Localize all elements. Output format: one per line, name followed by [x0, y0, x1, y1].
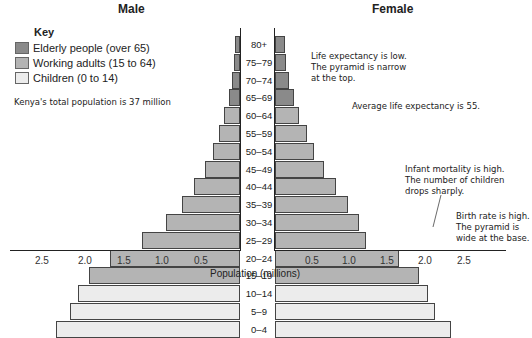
male-bar: [232, 72, 240, 89]
age-label: 30–34: [245, 217, 273, 228]
age-label: 55–59: [245, 128, 273, 139]
x-tick-label: 2.5: [35, 255, 49, 266]
male-bar: [78, 285, 240, 302]
x-tick-label: 0.5: [305, 255, 319, 266]
female-bar: [275, 89, 294, 106]
age-label: 50–54: [245, 146, 273, 157]
x-tick-label: 2.5: [457, 255, 471, 266]
age-label: 60–64: [245, 110, 273, 121]
age-label: 35–39: [245, 199, 273, 210]
male-bar: [194, 178, 240, 195]
male-bar: [70, 303, 240, 320]
x-tick-label: 2.0: [418, 255, 432, 266]
male-bar: [219, 125, 240, 142]
age-label: 25–29: [245, 235, 273, 246]
age-label: 40–44: [245, 181, 273, 192]
female-bar: [275, 303, 435, 320]
female-bar: [275, 143, 314, 160]
x-tick-label: 1.0: [155, 255, 169, 266]
age-label: 0–4: [245, 324, 273, 335]
female-bar: [275, 285, 428, 302]
x-tick-label: 2.0: [78, 255, 92, 266]
x-tick-label: 0.5: [194, 255, 208, 266]
female-bar: [275, 72, 289, 89]
age-label: 75–79: [245, 57, 273, 68]
female-bar: [275, 125, 307, 142]
female-bar: [275, 36, 285, 53]
x-tick-label: 1.5: [380, 255, 394, 266]
male-x-axis: [10, 250, 241, 251]
female-bar: [275, 178, 336, 195]
age-label: 5–9: [245, 306, 273, 317]
age-label: 65–69: [245, 92, 273, 103]
female-bar: [275, 321, 451, 338]
male-bar: [205, 161, 240, 178]
female-x-axis: [274, 250, 506, 251]
age-label: 45–49: [245, 164, 273, 175]
female-bar: [275, 232, 366, 249]
male-bar: [213, 143, 240, 160]
male-bar: [224, 107, 240, 124]
age-label: 70–74: [245, 75, 273, 86]
female-bar: [275, 107, 299, 124]
x-tick-label: 1.5: [117, 255, 131, 266]
male-bar: [229, 89, 240, 106]
x-tick-label: 1.0: [342, 255, 356, 266]
age-label: 80+: [245, 39, 273, 50]
female-bar: [275, 54, 286, 71]
male-bar: [142, 232, 240, 249]
female-bar: [275, 161, 324, 178]
female-bar: [275, 196, 348, 213]
male-bar: [56, 321, 240, 338]
male-bar: [166, 214, 240, 231]
female-bar: [275, 214, 359, 231]
age-label: 20–24: [245, 253, 273, 264]
x-axis-label: Population (millions): [210, 268, 300, 279]
age-label: 10–14: [245, 288, 273, 299]
male-bar: [182, 196, 240, 213]
female-axis: [274, 28, 275, 250]
male-axis: [240, 28, 241, 250]
